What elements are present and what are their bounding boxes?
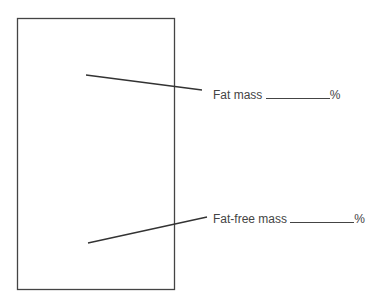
fat-mass-percent: % bbox=[330, 88, 341, 102]
body-composition-diagram bbox=[0, 0, 382, 306]
fat-free-mass-leader-line bbox=[88, 217, 207, 243]
fat-free-mass-text: Fat-free mass bbox=[213, 212, 287, 226]
fat-mass-text: Fat mass bbox=[213, 88, 262, 102]
fat-free-mass-blank[interactable] bbox=[290, 212, 354, 223]
fat-mass-blank[interactable] bbox=[266, 88, 330, 99]
fat-mass-leader-line bbox=[86, 75, 202, 90]
fat-free-mass-label: Fat-free mass % bbox=[213, 212, 365, 226]
fat-free-mass-percent: % bbox=[354, 212, 365, 226]
body-rectangle bbox=[18, 19, 175, 290]
fat-mass-label: Fat mass % bbox=[213, 88, 340, 102]
